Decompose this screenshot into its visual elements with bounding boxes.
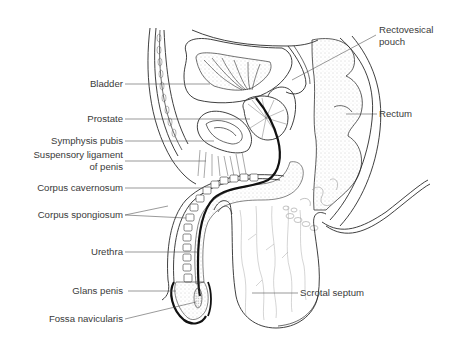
suspensory-ligament: [198, 150, 246, 178]
label-text: Scrotal septum: [300, 287, 364, 298]
bladder: [184, 39, 292, 103]
label-text: Urethra: [91, 246, 124, 257]
penis: [162, 98, 303, 323]
label-text: Prostate: [87, 113, 123, 124]
abdominal-wall: [148, 28, 196, 184]
label-text: Corpus spongiosum: [38, 209, 123, 220]
label-text: Fossa navicularis: [49, 313, 123, 324]
anatomy-diagram: Bladder Prostate Symphysis pubis Suspens…: [0, 0, 456, 346]
label-text: Bladder: [90, 78, 124, 89]
label-text: of penis: [89, 161, 123, 172]
label-glans-penis: Glans penis: [72, 285, 176, 296]
scrotum: [214, 201, 326, 328]
label-corpus-cavernosum: Corpus cavernosum: [37, 182, 203, 193]
label-bladder: Bladder: [90, 78, 210, 89]
symphysis-pubis: [197, 111, 251, 153]
label-text: Suspensory ligament: [33, 149, 123, 160]
label-text: Rectum: [379, 108, 412, 119]
label-symphysis-pubis: Symphysis pubis: [51, 135, 214, 146]
label-suspensory-ligament: Suspensory ligament of penis: [33, 149, 206, 172]
perineal-tissue: [283, 179, 430, 233]
label-text: Corpus cavernosum: [37, 182, 123, 193]
label-text: Glans penis: [72, 285, 123, 296]
label-text: Rectovesical: [379, 24, 433, 35]
label-urethra: Urethra: [91, 246, 197, 257]
prostate: [243, 87, 296, 140]
label-text: pouch: [379, 36, 405, 47]
rectum: [312, 36, 381, 226]
peritoneum-line: [192, 30, 318, 46]
label-text: Symphysis pubis: [51, 135, 123, 146]
label-corpus-spongiosum: Corpus spongiosum: [38, 206, 186, 220]
label-scrotal-septum: Scrotal septum: [252, 287, 364, 298]
fossa-navicularis: [194, 288, 202, 308]
